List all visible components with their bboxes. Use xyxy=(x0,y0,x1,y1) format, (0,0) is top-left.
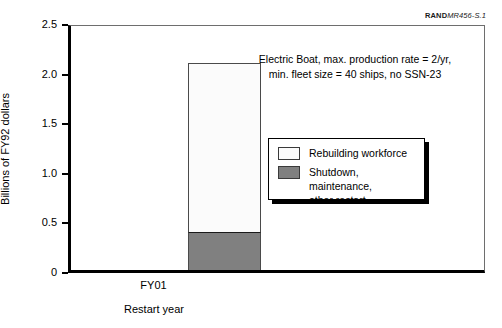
legend-swatch xyxy=(278,147,300,160)
y-axis: 00.51.01.52.02.5 Billions of FY92 dollar… xyxy=(0,25,68,273)
rand-figure-id: MR456-S.1 xyxy=(447,11,486,20)
y-axis-tick-label: 0.5 xyxy=(42,216,57,228)
y-axis-title: Billions of FY92 dollars xyxy=(0,25,14,273)
bar-segment xyxy=(188,63,261,233)
x-axis-category-label: FY01 xyxy=(117,279,190,291)
y-axis-tick-label: 2.5 xyxy=(42,18,57,30)
annotation-line: min. fleet size = 40 ships, no SSN-23 xyxy=(236,67,474,82)
chart-figure: RANDMR456-S.1 00.51.01.52.02.5 Billions … xyxy=(0,0,502,328)
x-axis-title: Restart year xyxy=(68,303,240,315)
legend-swatch xyxy=(278,166,300,179)
rand-logo-text: RAND xyxy=(425,11,447,20)
y-axis-tick-label: 2.0 xyxy=(42,68,57,80)
chart-annotation: Electric Boat, max. production rate = 2/… xyxy=(236,52,474,82)
y-axis-tick-label: 0 xyxy=(51,266,57,278)
rand-figure-credit: RANDMR456-S.1 xyxy=(425,11,486,20)
legend-item[interactable]: Rebuilding workforce xyxy=(278,146,424,160)
legend: Rebuilding workforceShutdown, maintenanc… xyxy=(268,138,425,200)
bar-segment xyxy=(188,232,261,270)
y-axis-tick-label: 1.5 xyxy=(42,117,57,129)
y-axis-tick-label: 1.0 xyxy=(42,167,57,179)
bar-stack-fy01 xyxy=(188,63,261,270)
legend-item[interactable]: Shutdown, maintenance, other restart xyxy=(278,165,424,207)
legend-label: Rebuilding workforce xyxy=(309,146,407,160)
legend-label: Shutdown, maintenance, other restart xyxy=(309,165,424,207)
annotation-line: Electric Boat, max. production rate = 2/… xyxy=(236,52,474,67)
